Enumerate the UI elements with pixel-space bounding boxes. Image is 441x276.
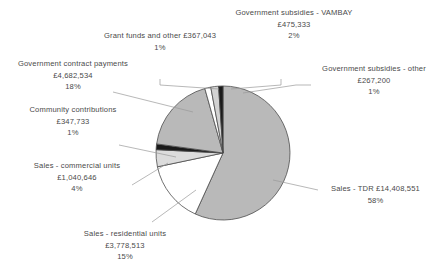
label-residential-percent: 15% — [56, 251, 194, 263]
label-commercial-value: £1,040,646 — [22, 172, 132, 184]
label-community-contributions: Community contributions £347,733 1% — [14, 104, 132, 139]
label-commercial-title: Sales - commercial units — [22, 160, 132, 172]
label-tdr-percent: 58% — [319, 195, 432, 207]
label-contract-payments-percent: 18% — [8, 81, 138, 93]
label-sales-residential-units: Sales - residential units £3,778,513 15% — [56, 228, 194, 263]
pie-chart-figure: Government subsidies - VAMBAY £475,333 2… — [0, 0, 441, 276]
label-grant-funds-and-other: Grant funds and other £367,043 1% — [100, 30, 220, 53]
label-community-value: £347,733 — [14, 116, 132, 128]
label-sales-commercial-units: Sales - commercial units £1,040,646 4% — [22, 160, 132, 195]
label-government-contract-payments: Government contract payments £4,682,534 … — [8, 58, 138, 93]
label-community-percent: 1% — [14, 127, 132, 139]
label-government-subsidies-vambay: Government subsidies - VAMBAY £475,333 2… — [207, 7, 381, 42]
label-grant-funds-title-value: Grant funds and other £367,043 — [100, 30, 220, 42]
label-sales-tdr: Sales - TDR £14,408,551 58% — [319, 183, 432, 206]
label-tdr-title-value: Sales - TDR £14,408,551 — [319, 183, 432, 195]
label-subsidies-other-title: Government subsidies - other — [310, 63, 438, 75]
label-vambay-percent: 2% — [207, 30, 381, 42]
label-contract-payments-title: Government contract payments — [8, 58, 138, 70]
label-vambay-value: £475,333 — [207, 19, 381, 31]
label-grant-funds-percent: 1% — [100, 42, 220, 54]
label-subsidies-other-percent: 1% — [310, 86, 438, 98]
label-residential-value: £3,778,513 — [56, 240, 194, 252]
label-commercial-percent: 4% — [22, 183, 132, 195]
label-community-title: Community contributions — [14, 104, 132, 116]
label-contract-payments-value: £4,682,534 — [8, 70, 138, 82]
label-vambay-title: Government subsidies - VAMBAY — [207, 7, 381, 19]
label-government-subsidies-other: Government subsidies - other £267,200 1% — [310, 63, 438, 98]
label-subsidies-other-value: £267,200 — [310, 75, 438, 87]
label-residential-title: Sales - residential units — [56, 228, 194, 240]
